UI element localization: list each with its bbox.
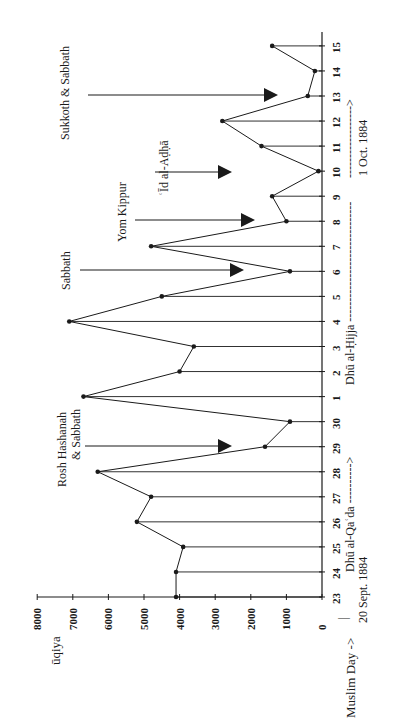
day-tick-label: 13	[330, 92, 342, 103]
day-tick-label: 6	[330, 270, 342, 276]
day-tick-label: 28	[330, 468, 342, 479]
day-tick-label: 10	[330, 167, 342, 178]
value-tick-label: 0	[316, 625, 328, 631]
day-axis	[319, 32, 325, 597]
day-tick-label: 24	[330, 568, 342, 579]
drop-lines	[69, 46, 322, 597]
arrow-rosh-hashanah	[85, 439, 232, 453]
day-tick-label: 26	[330, 518, 342, 529]
start-date-label: 20 Sept. 1884	[356, 557, 371, 623]
annotation-sukkoth-sabbath: Sukkoth & Sabbath	[58, 46, 73, 140]
value-tick-label: 4000	[174, 608, 186, 630]
day-tick-label: 15	[330, 42, 342, 53]
day-tick-label: 5	[330, 295, 342, 301]
day-tick-label: 30	[330, 418, 342, 429]
arrow-yom-kippur	[135, 213, 255, 227]
day-tick-label: 25	[330, 543, 342, 554]
day-tick-label: 12	[330, 117, 342, 128]
arrow-sabbath	[80, 263, 244, 277]
annotation-sabbath: Sabbath	[59, 251, 74, 290]
day-tick-label: 2	[330, 370, 342, 376]
day-tick-label: 7	[330, 245, 342, 251]
month-label-dhu-al-qada: Dhū al-Qaʿda ---------->	[343, 457, 358, 572]
day-tick-label: 8	[330, 220, 342, 226]
day-tick-label: 29	[330, 443, 342, 454]
y-axis-label: ūqiya	[48, 636, 64, 665]
value-tick-label: 5000	[138, 608, 150, 630]
day-tick-label: 23	[330, 593, 342, 604]
day-tick-label: 1	[330, 395, 342, 401]
start-marker: |	[336, 618, 351, 620]
x-axis-label: Muslim Day ->	[343, 638, 359, 718]
value-tick-label: 6000	[102, 608, 114, 630]
oct-date-label: 1 Oct. 1884	[356, 120, 371, 176]
value-tick-label: 2000	[245, 608, 257, 630]
annotation-arrows	[80, 88, 278, 453]
annotation-id-al-adha: ʿĪd al-Aḍḥā	[157, 140, 172, 196]
annotation-rosh-hashanah: Rosh Hashanah	[55, 412, 70, 487]
day-tick-label: 4	[330, 320, 342, 326]
value-tick-label: 3000	[209, 608, 221, 630]
day-tick-label: 3	[330, 345, 342, 351]
month-label-dhu-al-hijja: Dhū al-Ḥijja ---------------------------…	[343, 202, 358, 385]
value-tick-label: 1000	[280, 608, 292, 630]
annotation-yom-kippur: Yom Kippur	[115, 182, 130, 242]
day-tick-label: 27	[330, 493, 342, 504]
value-tick-label: 8000	[31, 608, 43, 630]
value-tick-label: 7000	[67, 608, 79, 630]
day-tick-label: 11	[330, 143, 342, 153]
day-tick-label: 14	[330, 67, 342, 78]
day-tick-label: 9	[330, 195, 342, 201]
annotation-rosh-hashanah-sabbath: & Sabbath	[69, 409, 84, 460]
arrow-sukkoth	[88, 88, 278, 102]
